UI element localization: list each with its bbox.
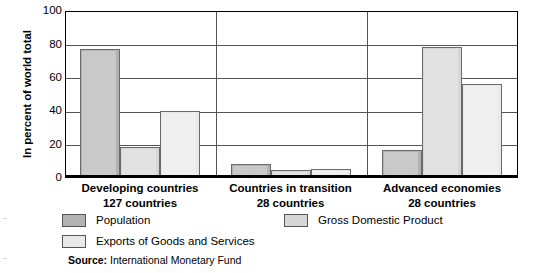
bar-countries-in-transition-gross-domestic-product (271, 170, 311, 175)
category-label-developing-countries: Developing countries 127 countries (65, 181, 215, 211)
legend-item-population[interactable]: Population (62, 212, 150, 228)
bar-countries-in-transition-exports-of-goods-and-services (311, 169, 351, 175)
y-axis-tick-labels: 100 80 60 40 20 0 (14, 0, 62, 185)
bar-advanced-economies-gross-domestic-product (422, 47, 462, 175)
y-tick-80: 80 (22, 39, 62, 51)
legend-label-gross-domestic-product: Gross Domestic Product (318, 214, 443, 226)
x-axis-category-labels: Developing countries 127 countries Count… (65, 181, 518, 215)
category-label-advanced-economies: Advanced economies 28 countries (366, 181, 518, 211)
category-label-line2: 28 countries (366, 196, 518, 211)
source-text: International Monetary Fund (107, 254, 241, 266)
category-label-countries-in-transition: Countries in transition 28 countries (215, 181, 366, 211)
source-note: Source: International Monetary Fund (68, 254, 241, 266)
legend-item-gross-domestic-product[interactable]: Gross Domestic Product (284, 212, 443, 228)
y-tick-100: 100 (22, 5, 62, 17)
bar-countries-in-transition-population (231, 164, 271, 175)
y-tick-20: 20 (22, 139, 62, 151)
legend-swatch-gross-domestic-product (284, 214, 308, 227)
category-label-line2: 28 countries (215, 196, 366, 211)
chart-legend: Population Gross Domestic Product Export… (62, 212, 522, 252)
bar-developing-countries-population (80, 49, 120, 175)
legend-label-population: Population (96, 214, 150, 226)
bar-developing-countries-gross-domestic-product (120, 147, 160, 175)
category-label-line1: Developing countries (82, 182, 199, 194)
legend-label-exports-of-goods-and-services: Exports of Goods and Services (96, 235, 255, 247)
y-tick-60: 60 (22, 72, 62, 84)
bar-advanced-economies-population (382, 150, 422, 175)
legend-swatch-population (62, 214, 86, 227)
legend-swatch-exports-of-goods-and-services (62, 235, 86, 248)
category-label-line1: Countries in transition (229, 182, 352, 194)
category-label-line2: 127 countries (65, 196, 215, 211)
legend-item-exports-of-goods-and-services[interactable]: Exports of Goods and Services (62, 233, 255, 249)
source-prefix: Source: (68, 254, 107, 266)
category-label-line1: Advanced economies (383, 182, 501, 194)
bars-layer (65, 11, 518, 175)
y-tick-0: 0 (22, 172, 62, 184)
scan-artifact (3, 218, 7, 219)
bar-developing-countries-exports-of-goods-and-services (160, 111, 200, 175)
bar-advanced-economies-exports-of-goods-and-services (462, 84, 502, 175)
scan-artifact (3, 258, 7, 259)
bar-chart: In percent of world total 100 80 60 40 2… (0, 0, 533, 273)
y-tick-40: 40 (22, 105, 62, 117)
